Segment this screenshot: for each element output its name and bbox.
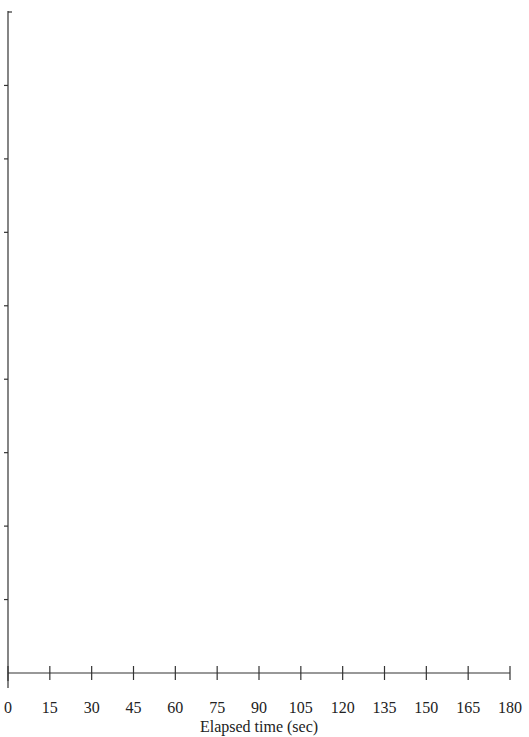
x-tick-label: 60 xyxy=(167,699,183,716)
x-tick-label: 180 xyxy=(498,699,522,716)
chart: 0153045607590105120135150165180 Elapsed … xyxy=(0,0,529,737)
x-tick-label: 45 xyxy=(126,699,142,716)
x-tick-label: 165 xyxy=(456,699,480,716)
x-tick-labels: 0153045607590105120135150165180 xyxy=(4,699,522,716)
y-axis xyxy=(4,11,12,681)
x-tick-label: 75 xyxy=(209,699,225,716)
x-tick-label: 150 xyxy=(414,699,438,716)
x-tick-label: 30 xyxy=(84,699,100,716)
x-axis-title: Elapsed time (sec) xyxy=(200,718,318,736)
x-ticks xyxy=(8,666,510,688)
x-tick-label: 90 xyxy=(251,699,267,716)
x-tick-label: 120 xyxy=(331,699,355,716)
x-axis: 0153045607590105120135150165180 Elapsed … xyxy=(4,666,522,736)
x-tick-label: 15 xyxy=(42,699,58,716)
x-tick-label: 135 xyxy=(373,699,397,716)
x-tick-label: 0 xyxy=(4,699,12,716)
x-tick-label: 105 xyxy=(289,699,313,716)
